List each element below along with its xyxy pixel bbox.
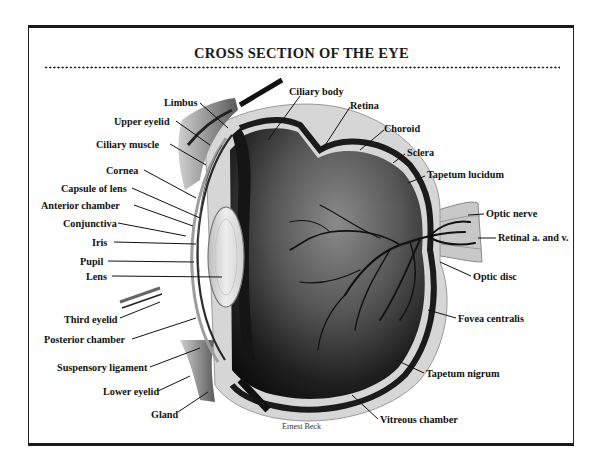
artist-credit: Ernest Beck <box>282 422 321 431</box>
leader-lines <box>0 0 603 470</box>
